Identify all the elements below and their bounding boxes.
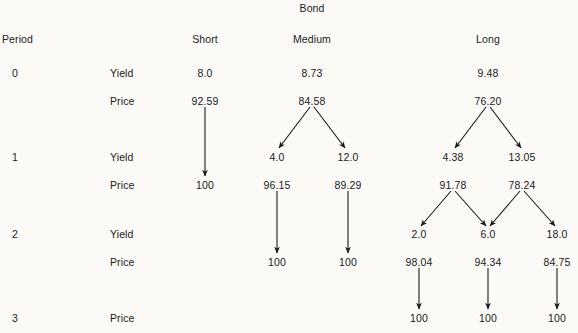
row-label-price-6: Price [110,312,134,324]
value-long-p1-price: 78.24 [509,179,536,191]
value-medium-p1-price: 89.29 [335,179,362,191]
arrow-long-p1-high-to-down [490,191,520,226]
value-medium-p1-yield: 4.0 [270,151,285,163]
row-label-yield-4: Yield [110,228,133,240]
period-label-2: 2 [12,228,18,240]
value-long-p2-yield: 18.0 [547,228,568,240]
value-long-p3-price: 100 [479,312,497,324]
value-long-p2-yield: 6.0 [481,228,496,240]
row-label-price-3: Price [110,179,134,191]
value-short-p0-price: 92.59 [192,95,219,107]
lattice-arrows [0,0,578,333]
value-medium-p2-price: 100 [339,256,357,268]
row-label-price-1: Price [110,95,134,107]
period-label-1: 1 [12,151,18,163]
value-long-p0-yield: 9.48 [478,67,499,79]
period-label-0: 0 [12,67,18,79]
value-long-p0-price: 76.20 [475,95,502,107]
figure-title: Bond [300,2,325,14]
value-medium-p1-yield: 12.0 [338,151,359,163]
arrow-long-p0-to-down [455,107,486,148]
arrow-long-p1-high-to-up [524,191,555,226]
arrow-medium-p0-to-down [279,107,310,148]
arrow-medium-p0-to-up [314,107,345,148]
value-long-p2-price: 98.04 [406,256,433,268]
value-long-p3-price: 100 [410,312,428,324]
row-label-yield-0: Yield [110,67,133,79]
row-label-price-5: Price [110,256,134,268]
arrow-long-p1-low-to-down [421,191,451,226]
period-label-3: 3 [12,312,18,324]
value-long-p1-yield: 13.05 [509,151,536,163]
value-medium-p2-price: 100 [268,256,286,268]
value-long-p2-yield: 2.0 [412,228,427,240]
arrow-long-p0-to-up [490,107,521,148]
value-medium-p1-price: 96.15 [264,179,291,191]
value-medium-p0-price: 84.58 [299,95,326,107]
period-column-header: Period [2,33,33,45]
bond-header-long: Long [476,33,500,45]
bond-header-medium: Medium [293,33,331,45]
arrow-long-p1-low-to-up [455,191,486,226]
bond-header-short: Short [192,33,218,45]
value-long-p1-yield: 4.38 [443,151,464,163]
value-short-p1-price: 100 [196,179,214,191]
value-long-p1-price: 91.78 [440,179,467,191]
value-long-p2-price: 94.34 [475,256,502,268]
value-medium-p0-yield: 8.73 [302,67,323,79]
value-long-p2-price: 84.75 [544,256,571,268]
value-short-p0-yield: 8.0 [198,67,213,79]
value-long-p3-price: 100 [548,312,566,324]
bond-lattice-figure: Bond Period ShortMediumLong 0123 YieldPr… [0,0,578,333]
row-label-yield-2: Yield [110,151,133,163]
